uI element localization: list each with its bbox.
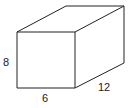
depth-label: 12 xyxy=(98,81,110,93)
top-face-edges xyxy=(17,6,124,32)
side-face-edges xyxy=(75,6,124,88)
width-label: 6 xyxy=(42,92,48,104)
front-face xyxy=(17,32,75,88)
height-label: 8 xyxy=(3,56,9,68)
prism-diagram: 8 6 12 xyxy=(0,0,130,108)
